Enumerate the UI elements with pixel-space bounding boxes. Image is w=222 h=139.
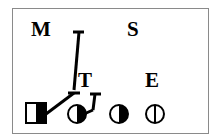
circle-vertical-line-icon (146, 105, 164, 123)
top-t-cap-line (73, 32, 84, 90)
right-junction-cap (84, 94, 101, 114)
half-filled-square-icon (26, 103, 46, 123)
half-filled-circle-icon (68, 105, 86, 123)
half-filled-circle-2-icon (110, 105, 128, 123)
pedigree-diagram (0, 0, 222, 139)
